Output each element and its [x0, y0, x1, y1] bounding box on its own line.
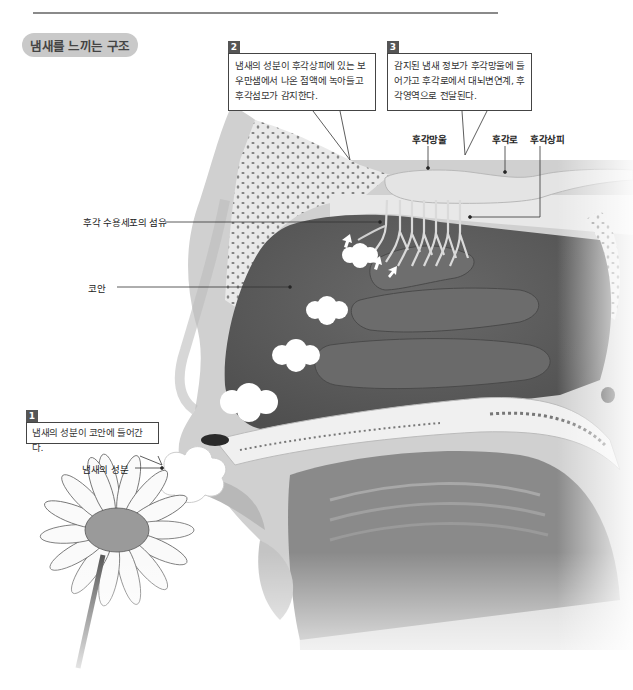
- label-receptor-fibers: 후각 수용세포의 섬유: [83, 215, 167, 229]
- step-number-badge: 1: [26, 410, 38, 422]
- label-olfactory-epithelium: 후각상피: [530, 132, 565, 146]
- label-olfactory-tract: 후각로: [492, 132, 518, 146]
- callout-text: 감지된 냄새 정보가 후각망울에 들어가고 후각로에서 대뇌변연계, 후각영역으…: [387, 53, 532, 111]
- step-number-badge: 2: [228, 41, 240, 53]
- callout-text: 냄새의 성분이 코안에 들어간다.: [26, 422, 159, 444]
- label-odor-components: 냄새의 성분: [82, 462, 128, 476]
- step-number-badge: 3: [387, 41, 399, 53]
- label-olfactory-bulb: 후각망울: [412, 132, 447, 146]
- callout-text: 냄새의 성분이 후각상피에 있는 보우만샘에서 나온 점액에 녹아들고 후각섬모…: [228, 53, 376, 111]
- label-nasal-cavity: 코안: [88, 281, 105, 295]
